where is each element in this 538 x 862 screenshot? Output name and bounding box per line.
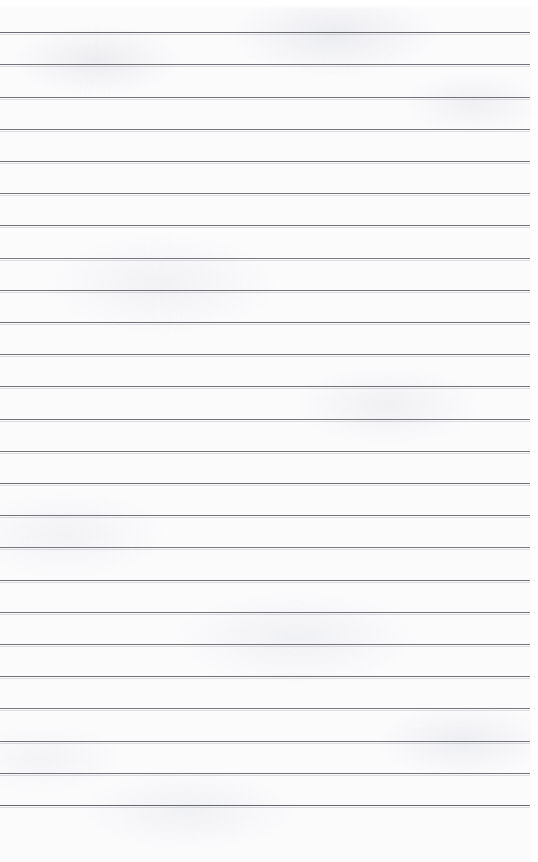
ruled-line <box>0 773 530 774</box>
ruled-line <box>0 129 530 130</box>
scanned-page <box>0 0 538 862</box>
ruled-line-layer <box>0 0 538 862</box>
ruled-line <box>0 97 530 98</box>
ruled-line <box>0 322 530 323</box>
ruled-line <box>0 708 530 709</box>
ruled-line <box>0 161 530 162</box>
ruled-line <box>0 193 530 194</box>
ruled-line <box>0 451 530 452</box>
ruled-line <box>0 225 530 226</box>
ruled-line <box>0 32 530 33</box>
ruled-line <box>0 547 530 548</box>
ruled-line <box>0 644 530 645</box>
ruled-line <box>0 805 530 806</box>
ruled-line <box>0 290 530 291</box>
ruled-line <box>0 580 530 581</box>
ruled-line <box>0 386 530 387</box>
ruled-line <box>0 515 530 516</box>
ruled-line <box>0 612 530 613</box>
ruled-line <box>0 419 530 420</box>
ruled-line <box>0 676 530 677</box>
ruled-line <box>0 354 530 355</box>
ruled-line <box>0 741 530 742</box>
ruled-line <box>0 258 530 259</box>
ruled-line <box>0 483 530 484</box>
ruled-line <box>0 64 530 65</box>
